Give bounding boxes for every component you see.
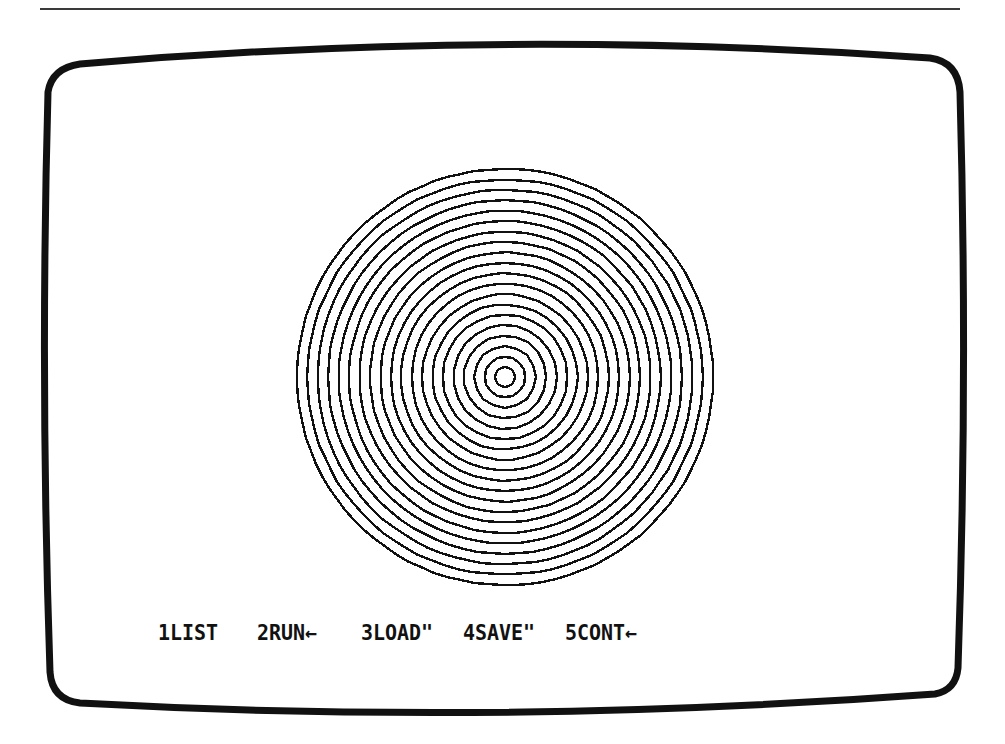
ring-8 bbox=[422, 294, 588, 460]
ring-2 bbox=[485, 357, 525, 397]
function-key-2-run[interactable]: 2RUN← bbox=[257, 621, 317, 645]
ring-13 bbox=[370, 242, 640, 512]
ring-18 bbox=[318, 190, 692, 564]
ring-4 bbox=[464, 336, 546, 418]
function-key-3-load[interactable]: 3LOAD" bbox=[361, 621, 433, 645]
function-key-1-list[interactable]: 1LIST bbox=[158, 621, 218, 645]
ring-1 bbox=[495, 367, 515, 387]
function-key-4-save[interactable]: 4SAVE" bbox=[463, 621, 535, 645]
ring-16 bbox=[339, 211, 671, 543]
ring-3 bbox=[474, 346, 536, 408]
ring-6 bbox=[443, 315, 567, 439]
ring-9 bbox=[412, 284, 598, 470]
ring-11 bbox=[391, 263, 619, 491]
ring-19 bbox=[307, 180, 703, 574]
ring-12 bbox=[381, 252, 630, 502]
function-key-5-cont[interactable]: 5CONT← bbox=[565, 621, 637, 645]
ring-15 bbox=[349, 221, 661, 533]
ring-14 bbox=[360, 232, 650, 522]
ring-5 bbox=[454, 325, 557, 429]
